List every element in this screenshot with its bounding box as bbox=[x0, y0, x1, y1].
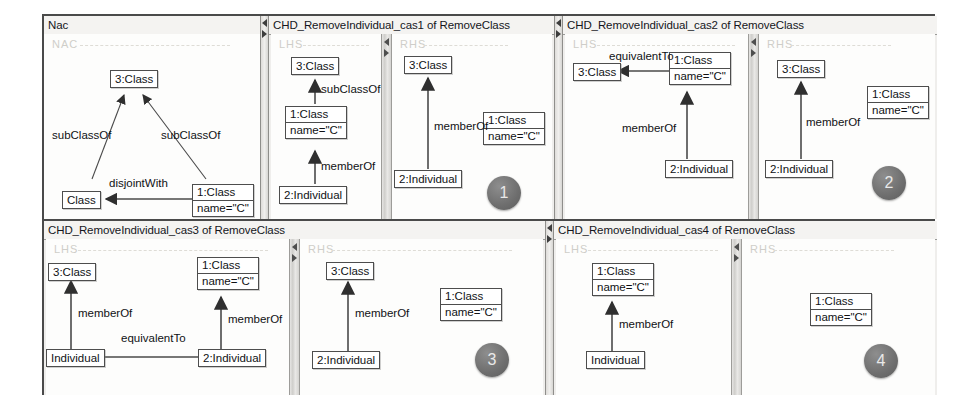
node-individual-label: Individual bbox=[47, 350, 104, 366]
node-class-label: Class bbox=[63, 192, 100, 208]
node-2individual[interactable]: 2:Individual bbox=[312, 351, 380, 369]
splitter-left-arrow-icon[interactable] bbox=[262, 19, 267, 27]
node-2individual[interactable]: 2:Individual bbox=[198, 349, 266, 367]
node-1class-attr: name="C" bbox=[441, 305, 501, 320]
splitter-cas1-cas2[interactable] bbox=[554, 16, 563, 219]
cas1-lhs-canvas[interactable]: LHS 3:Class 1:Class name="C" 2:Individ bbox=[271, 34, 381, 219]
edge-label-memberof: memberOf bbox=[434, 120, 488, 132]
panel-badge: 2 bbox=[872, 166, 906, 200]
node-3class[interactable]: 3:Class bbox=[291, 57, 339, 75]
node-1class[interactable]: 1:Class name="C" bbox=[192, 184, 254, 217]
splitter-left-arrow-icon[interactable] bbox=[751, 38, 756, 46]
edge-label-disjointwith: disjointWith bbox=[109, 177, 168, 189]
cas3-lhs-canvas[interactable]: LHS 3:Class 1:Class name="C" bbox=[46, 239, 289, 395]
node-1class[interactable]: 1:Class name="C" bbox=[197, 257, 259, 290]
node-3class-label: 3:Class bbox=[49, 264, 95, 280]
node-1class-name: 1:Class bbox=[868, 87, 928, 103]
cas3-rhs-canvas[interactable]: RHS 3:Class 2:Individual 1:Class name="C… bbox=[300, 239, 543, 395]
splitter-cas3-lhs-rhs[interactable] bbox=[289, 239, 300, 395]
panel-nac[interactable]: Nac NAC bbox=[44, 16, 260, 219]
cas4-rhs-canvas[interactable]: RHS 1:Class name="C" 4 bbox=[742, 239, 935, 395]
node-1class[interactable]: 1:Class name="C" bbox=[440, 288, 502, 321]
splitter-left-arrow-icon[interactable] bbox=[734, 243, 739, 251]
node-1class[interactable]: 1:Class name="C" bbox=[592, 263, 654, 296]
node-individual[interactable]: Individual bbox=[586, 351, 645, 369]
splitter-cas4-lhs-rhs[interactable] bbox=[731, 239, 742, 395]
node-class[interactable]: Class bbox=[62, 191, 101, 209]
node-2individual[interactable]: 2:Individual bbox=[765, 160, 833, 178]
panel-cas2-title: CHD_RemoveIndividual_cas2 of RemoveClass bbox=[563, 16, 937, 35]
node-2individual[interactable]: 2:Individual bbox=[665, 160, 733, 178]
cas2-lhs-canvas[interactable]: LHS 3:Class 1:Class name="C" 2:Individ bbox=[565, 34, 748, 219]
node-1class-attr: name="C" bbox=[670, 69, 730, 84]
panel-cas3-body: LHS 3:Class 1:Class name="C" bbox=[44, 239, 545, 395]
edge-label-subclassof-right: subClassOf bbox=[161, 129, 220, 141]
splitter-right-arrow-icon[interactable] bbox=[751, 49, 756, 57]
splitter-left-arrow-icon[interactable] bbox=[547, 224, 552, 232]
node-1class[interactable]: 1:Class name="C" bbox=[867, 86, 929, 119]
panel-cas3-title: CHD_RemoveIndividual_cas3 of RemoveClass bbox=[44, 221, 545, 240]
node-3class-label: 3:Class bbox=[111, 71, 157, 87]
node-3class-label: 3:Class bbox=[327, 263, 373, 279]
panel-badge: 1 bbox=[487, 176, 521, 210]
splitter-cas2-lhs-rhs[interactable] bbox=[748, 34, 759, 219]
node-1class-name: 1:Class bbox=[484, 113, 544, 129]
node-3class[interactable]: 3:Class bbox=[326, 262, 374, 280]
nac-canvas[interactable]: NAC bbox=[44, 34, 260, 219]
panel-cas2[interactable]: CHD_RemoveIndividual_cas2 of RemoveClass… bbox=[563, 16, 937, 219]
cas4-lhs-canvas[interactable]: LHS 1:Class name="C" Individual memberOf bbox=[556, 239, 731, 395]
panel-badge: 4 bbox=[864, 344, 898, 378]
node-1class-name: 1:Class bbox=[441, 289, 501, 305]
node-individual[interactable]: Individual bbox=[46, 349, 105, 367]
splitter-right-arrow-icon[interactable] bbox=[384, 49, 389, 57]
node-3class[interactable]: 3:Class bbox=[404, 56, 452, 74]
panel-cas1-title: CHD_RemoveIndividual_cas1 of RemoveClass bbox=[269, 16, 554, 35]
splitter-right-arrow-icon[interactable] bbox=[292, 254, 297, 262]
splitter-left-arrow-icon[interactable] bbox=[556, 19, 561, 27]
edge-label-subclassof-left: subClassOf bbox=[52, 129, 111, 141]
node-1class-name: 1:Class bbox=[286, 107, 346, 123]
node-2individual-label: 2:Individual bbox=[313, 352, 379, 368]
panel-cas4[interactable]: CHD_RemoveIndividual_cas4 of RemoveClass… bbox=[554, 221, 937, 395]
node-3class-label: 3:Class bbox=[778, 61, 824, 77]
splitter-left-arrow-icon[interactable] bbox=[292, 243, 297, 251]
node-2individual-label: 2:Individual bbox=[395, 171, 461, 187]
splitter-nac-cas1[interactable] bbox=[260, 16, 269, 219]
splitter-right-arrow-icon[interactable] bbox=[262, 30, 267, 38]
panel-cas3[interactable]: CHD_RemoveIndividual_cas3 of RemoveClass… bbox=[44, 221, 545, 395]
node-3class-label: 3:Class bbox=[574, 64, 620, 80]
panel-cas4-body: LHS 1:Class name="C" Individual memberOf bbox=[554, 239, 937, 395]
splitter-left-arrow-icon[interactable] bbox=[384, 38, 389, 46]
node-3class[interactable]: 3:Class bbox=[573, 63, 621, 81]
edge-label-equivalentto: equivalentTo bbox=[121, 332, 186, 344]
node-3class[interactable]: 3:Class bbox=[777, 60, 825, 78]
node-1class-attr: name="C" bbox=[193, 201, 253, 216]
node-2individual[interactable]: 2:Individual bbox=[279, 186, 347, 204]
cas2-rhs-canvas[interactable]: RHS 3:Class 2:Individual 1:Class name="C… bbox=[759, 34, 935, 219]
node-1class-attr: name="C" bbox=[593, 280, 653, 295]
node-1class[interactable]: 1:Class name="C" bbox=[669, 52, 731, 85]
node-3class[interactable]: 3:Class bbox=[110, 70, 158, 88]
splitter-right-arrow-icon[interactable] bbox=[556, 30, 561, 38]
top-panel-row: Nac NAC bbox=[44, 16, 933, 221]
edge-label-memberof-left: memberOf bbox=[78, 307, 132, 319]
node-3class[interactable]: 3:Class bbox=[48, 263, 96, 281]
splitter-right-arrow-icon[interactable] bbox=[547, 235, 552, 243]
node-1class-name: 1:Class bbox=[670, 53, 730, 69]
node-1class[interactable]: 1:Class name="C" bbox=[810, 293, 872, 326]
node-1class[interactable]: 1:Class name="C" bbox=[483, 112, 545, 145]
node-individual-label: Individual bbox=[587, 352, 644, 368]
splitter-cas1-lhs-rhs[interactable] bbox=[381, 34, 392, 219]
splitter-cas3-cas4[interactable] bbox=[545, 221, 554, 395]
splitter-right-arrow-icon[interactable] bbox=[734, 254, 739, 262]
node-1class-attr: name="C" bbox=[286, 123, 346, 138]
panel-cas4-title: CHD_RemoveIndividual_cas4 of RemoveClass bbox=[554, 221, 937, 240]
cas1-rhs-canvas[interactable]: RHS 3:Class 2:Individual 1:Class name="C… bbox=[392, 34, 552, 219]
edge-label-memberof: memberOf bbox=[321, 160, 375, 172]
edge-label-memberof-right: memberOf bbox=[228, 313, 282, 325]
node-1class[interactable]: 1:Class name="C" bbox=[285, 106, 347, 139]
panel-cas1-body: LHS 3:Class 1:Class name="C" 2:Individ bbox=[269, 34, 554, 219]
panel-cas1[interactable]: CHD_RemoveIndividual_cas1 of RemoveClass… bbox=[269, 16, 554, 219]
node-2individual[interactable]: 2:Individual bbox=[394, 170, 462, 188]
panel-nac-body: NAC bbox=[44, 34, 260, 219]
